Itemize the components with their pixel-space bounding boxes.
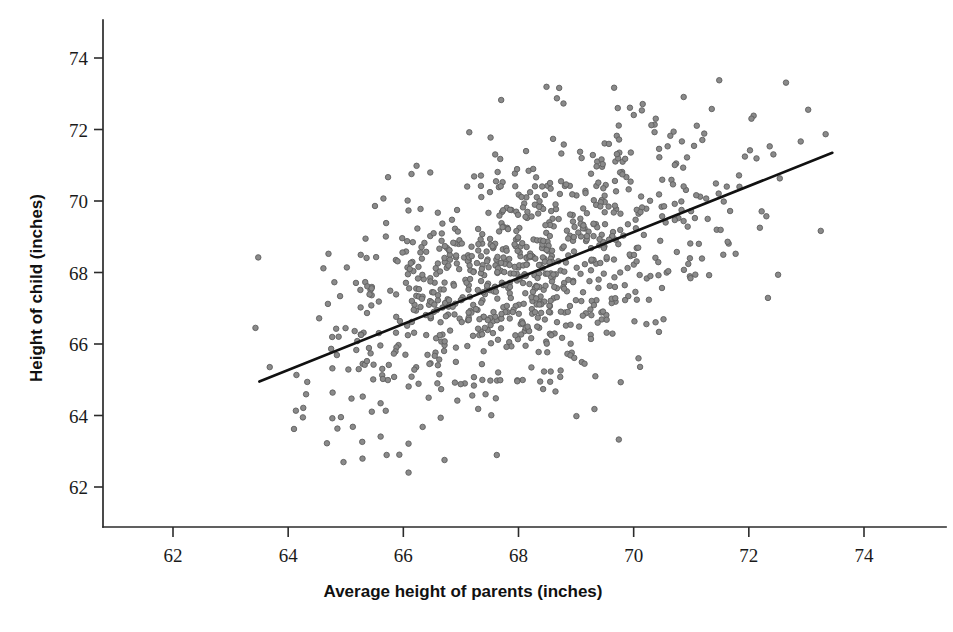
scatter-point [596, 277, 602, 283]
scatter-point [471, 383, 477, 389]
scatter-point [341, 459, 347, 465]
scatter-point [449, 217, 455, 223]
scatter-point [572, 224, 578, 230]
scatter-point [466, 310, 472, 316]
scatter-point [439, 238, 445, 244]
scatter-point [476, 248, 482, 254]
scatter-point [467, 130, 473, 136]
scatter-point [553, 389, 559, 395]
scatter-point [631, 252, 637, 258]
scatter-point [495, 337, 501, 343]
scatter-point [329, 334, 335, 340]
scatter-point [565, 309, 571, 315]
x-tick-label: 68 [509, 545, 528, 566]
scatter-point [612, 275, 618, 281]
scatter-point [335, 426, 341, 432]
scatter-point [442, 457, 448, 463]
scatter-point [580, 290, 586, 296]
scatter-point [610, 331, 616, 337]
scatter-point [439, 231, 445, 237]
scatter-point [515, 212, 521, 218]
scatter-point [576, 230, 582, 236]
scatter-point [659, 177, 665, 183]
scatter-point [686, 261, 692, 267]
scatter-point [661, 317, 667, 323]
scatter-point [512, 242, 518, 248]
scatter-point [492, 152, 498, 158]
scatter-point [488, 322, 494, 328]
scatter-point [399, 235, 405, 241]
scatter-point [467, 276, 473, 282]
scatter-point [358, 332, 364, 338]
scatter-point [479, 194, 485, 200]
scatter-point [656, 272, 662, 278]
scatter-point [506, 256, 512, 262]
scatter-point [672, 162, 678, 168]
scatter-point [530, 289, 536, 295]
scatter-point [523, 148, 529, 154]
scatter-point [727, 208, 733, 214]
scatter-point [475, 287, 481, 293]
scatter-point [593, 374, 599, 380]
scatter-point [528, 335, 534, 341]
scatter-point [554, 319, 560, 325]
scatter-point [480, 231, 486, 237]
scatter-point [291, 426, 297, 432]
scatter-point [612, 178, 618, 184]
scatter-point [303, 392, 309, 398]
scatter-point [523, 290, 529, 296]
scatter-point [556, 216, 562, 222]
scatter-point [604, 317, 610, 323]
scatter-point [561, 142, 567, 148]
scatter-point [582, 261, 588, 267]
scatter-point [598, 204, 604, 210]
scatter-point [395, 259, 401, 265]
scatter-point [589, 257, 595, 263]
scatter-point [706, 272, 712, 278]
scatter-point [516, 311, 522, 317]
scatter-point [337, 293, 343, 299]
scatter-point [479, 266, 485, 272]
scatter-point [580, 313, 586, 319]
scatter-point [565, 236, 571, 242]
scatter-point [267, 364, 273, 370]
scatter-point [426, 395, 432, 401]
scatter-point [591, 302, 597, 308]
scatter-point [579, 155, 585, 161]
scatter-point [634, 259, 640, 265]
scatter-point [332, 279, 338, 285]
scatter-point [446, 263, 452, 269]
scatter-point [391, 351, 397, 357]
scatter-point [437, 246, 443, 252]
scatter-point [548, 208, 554, 214]
scatter-point [595, 320, 601, 326]
scatter-point [681, 267, 687, 273]
scatter-point [490, 330, 496, 336]
scatter-point [501, 269, 507, 275]
scatter-point [513, 184, 519, 190]
scatter-point [559, 151, 565, 157]
scatter-point [378, 434, 384, 440]
scatter-point [406, 470, 412, 476]
scatter-point [631, 112, 637, 118]
scatter-point [412, 367, 418, 373]
scatter-point [406, 286, 412, 292]
scatter-point [558, 309, 564, 315]
scatter-point [644, 321, 650, 327]
x-tick-label: 66 [394, 545, 413, 566]
scatter-point [628, 150, 634, 156]
scatter-point [656, 259, 662, 265]
scatter-point [423, 249, 429, 255]
scatter-point [478, 183, 484, 189]
scatter-point [754, 156, 760, 162]
scatter-point [535, 275, 541, 281]
scatter-point [588, 268, 594, 274]
scatter-point [383, 220, 389, 226]
scatter-point [501, 255, 507, 261]
scatter-point [584, 210, 590, 216]
scatter-point [384, 452, 390, 458]
scatter-point [577, 149, 583, 155]
scatter-point [681, 94, 687, 100]
scatter-point [572, 355, 578, 361]
x-tick-label: 64 [279, 545, 299, 566]
